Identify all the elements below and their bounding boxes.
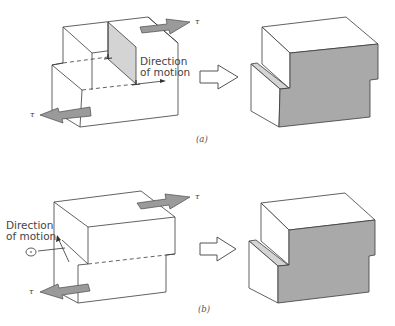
direction-label-line2: of motion bbox=[140, 67, 190, 78]
caption-a: (a) bbox=[196, 134, 208, 144]
caption-b: (b) bbox=[198, 304, 210, 314]
tau-label-top-b: τ bbox=[195, 192, 199, 201]
transition-arrow-a bbox=[200, 65, 238, 89]
panel-a-final-block bbox=[251, 17, 378, 127]
tau-label-top-a: τ bbox=[195, 17, 199, 26]
direction-label-line2: of motion bbox=[6, 231, 48, 242]
shaded-step-face bbox=[278, 220, 375, 303]
panel-b-final-block bbox=[249, 193, 375, 303]
panel-b-initial-block bbox=[26, 191, 175, 303]
direction-label-a: Direction of motion bbox=[140, 56, 190, 78]
direction-label-b: Direction of motion bbox=[6, 220, 48, 242]
tau-label-bottom-b: τ bbox=[29, 287, 33, 296]
shaded-step-face bbox=[279, 44, 378, 127]
transition-arrow-b bbox=[200, 237, 236, 261]
tau-label-bottom-a: τ bbox=[30, 110, 34, 119]
dislocation-diagram bbox=[0, 0, 395, 326]
